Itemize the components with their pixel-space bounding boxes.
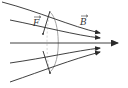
force-vectors [42, 11, 51, 74]
svg-text:F: F [32, 18, 40, 28]
force-vector-upper [43, 11, 50, 34]
svg-text:B: B [79, 17, 87, 27]
current-loop [47, 12, 58, 72]
label-field-b: B [79, 15, 88, 27]
magnetic-field-diagram: F B [0, 0, 128, 88]
field-lines [2, 2, 118, 82]
field-line-bottom [10, 52, 100, 82]
